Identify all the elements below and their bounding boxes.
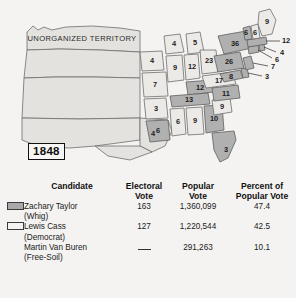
label-pennsylvania: 26: [225, 57, 233, 66]
candidate-cell-van-buren: Martin Van Buren (Free-Soil): [24, 243, 120, 264]
percent-cass: 42.5: [228, 222, 296, 243]
candidate-name-cass: Lewis Cass: [24, 222, 120, 232]
label-maryland: 8: [229, 72, 233, 81]
label-virginia: 17: [215, 76, 223, 85]
header-candidate: Candidate: [24, 182, 120, 202]
label-massachusetts: 12: [282, 36, 290, 45]
label-louisiana: 6: [156, 126, 160, 135]
label-alabama: 9: [193, 116, 197, 125]
table-header-row: Candidate Electoral Vote Popular Vote Pe…: [0, 182, 296, 202]
label-kentucky: 12: [196, 83, 204, 92]
header-percent-line2: Popular Vote: [236, 191, 288, 201]
table-row: Lewis Cass (Democrat) 127 1,220,544 42.5: [0, 222, 296, 243]
label-mississippi: 6: [176, 117, 180, 126]
candidate-party-van-buren: (Free-Soil): [24, 253, 120, 263]
percent-taylor: 47.4: [228, 202, 296, 223]
election-results-table: Candidate Electoral Vote Popular Vote Pe…: [0, 182, 296, 263]
candidate-name-van-buren: Martin Van Buren: [24, 243, 120, 253]
header-popular-vote-line2: Vote: [189, 191, 207, 201]
percent-van-buren: 10.1: [228, 243, 296, 264]
legend-swatch-taylor: [7, 202, 24, 210]
south-group: [170, 72, 240, 162]
label-florida: 3: [224, 145, 228, 154]
year-badge: 1848: [28, 143, 65, 160]
results-table: Candidate Electoral Vote Popular Vote Pe…: [0, 182, 296, 263]
header-popular-vote: Popular Vote: [168, 182, 228, 202]
popular-vote-cass: 1,220,544: [168, 222, 228, 243]
label-michigan: 5: [193, 38, 197, 47]
state-new-jersey: [243, 56, 254, 70]
header-popular-vote-line1: Popular: [182, 181, 214, 191]
label-south-carolina: 9: [220, 102, 224, 111]
candidate-party-cass: (Democrat): [24, 233, 120, 243]
leader-line-new-jersey: [253, 63, 268, 66]
label-new-york: 36: [231, 39, 239, 48]
label-rhode-island: 4: [280, 48, 285, 57]
electoral-vote-cass: 127: [120, 222, 168, 243]
no-electoral-vote-dash: [138, 249, 151, 250]
legend-swatch-van-buren: [7, 243, 24, 251]
candidate-name-taylor: Zachary Taylor: [24, 202, 120, 212]
electoral-vote-van-buren: [120, 243, 168, 264]
header-percent-line1: Percent of: [241, 181, 283, 191]
label-vermont: 6: [244, 28, 248, 37]
label-new-jersey: 7: [271, 62, 275, 71]
label-ohio: 23: [205, 56, 213, 65]
popular-vote-taylor: 1,360,099: [168, 202, 228, 223]
leader-line-delaware: [248, 73, 262, 76]
table-body: Zachary Taylor (Whig) 163 1,360,099 47.4…: [0, 202, 296, 264]
election-map-figure: .land { fill:#e3e2df; stroke:#6d6d6d; st…: [0, 0, 296, 298]
table-row: Martin Van Buren (Free-Soil) 291,263 10.…: [0, 243, 296, 264]
candidate-cell-cass: Lewis Cass (Democrat): [24, 222, 120, 243]
header-swatch-spacer: [0, 182, 24, 202]
popular-vote-van-buren: 291,263: [168, 243, 228, 264]
label-illinois: 9: [173, 63, 177, 72]
table-row: Zachary Taylor (Whig) 163 1,360,099 47.4: [0, 202, 296, 223]
leader-line-connecticut: [258, 50, 272, 58]
label-connecticut: 6: [275, 55, 279, 64]
region-great-basin: [22, 77, 140, 119]
legend-swatch-cell-taylor: [0, 202, 24, 223]
label-arkansas: 3: [154, 104, 158, 113]
label-delaware: 3: [265, 72, 269, 81]
label-new-hampshire: 6: [253, 28, 257, 37]
unorganized-territory-label: UNORGANIZED TERRITORY: [27, 34, 136, 43]
candidate-cell-taylor: Zachary Taylor (Whig): [24, 202, 120, 223]
label-georgia: 10: [210, 114, 218, 123]
table-head: Candidate Electoral Vote Popular Vote Pe…: [0, 182, 296, 202]
legend-swatch-cell-van-buren: [0, 243, 24, 264]
header-electoral-vote: Electoral Vote: [120, 182, 168, 202]
header-electoral-vote-line2: Vote: [135, 191, 153, 201]
us-electoral-map: .land { fill:#e3e2df; stroke:#6d6d6d; st…: [0, 0, 296, 182]
legend-swatch-cass: [7, 222, 24, 230]
label-tennessee: 13: [185, 95, 193, 104]
label-north-carolina: 11: [222, 89, 230, 98]
candidate-party-taylor: (Whig): [24, 212, 120, 222]
leader-line-rhode-island: [264, 47, 276, 52]
legend-swatch-cell-cass: [0, 222, 24, 243]
header-electoral-vote-line1: Electoral: [126, 181, 162, 191]
region-unorganized-territory: [24, 49, 140, 78]
label-missouri: 7: [153, 80, 157, 89]
label-indiana: 12: [188, 62, 196, 71]
header-percent-popular-vote: Percent of Popular Vote: [228, 182, 296, 202]
label-maine: 9: [265, 17, 269, 26]
region-southwest-strip: [95, 146, 152, 160]
electoral-vote-taylor: 163: [120, 202, 168, 223]
